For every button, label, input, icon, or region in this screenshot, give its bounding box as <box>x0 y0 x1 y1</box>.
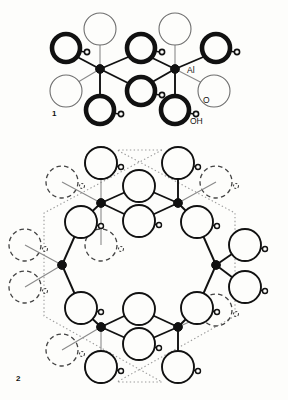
oxygen-circle <box>159 13 191 45</box>
hydroxyl-circle <box>127 34 155 62</box>
oxygen-circle <box>123 205 155 237</box>
hydrogen-circle <box>234 49 239 54</box>
hydroxyl-circle <box>86 96 114 124</box>
equivalent-hydrogen-circle <box>234 184 239 189</box>
oxygen-circle <box>85 351 117 383</box>
aluminium-node <box>174 199 183 208</box>
oxygen-circle <box>123 293 155 325</box>
outer-bond <box>25 265 62 287</box>
oxygen-circle <box>229 229 261 261</box>
hydrogen-circle <box>157 223 162 228</box>
hydrogen-circle <box>263 247 268 252</box>
equivalent-hydrogen-circle <box>43 289 48 294</box>
equivalent-hydrogen-circle <box>119 247 124 252</box>
hydrogen-circle <box>99 224 104 229</box>
aluminium-node <box>97 323 106 332</box>
oxygen-circle <box>181 292 213 324</box>
oxygen-circle <box>84 13 116 45</box>
hydrogen-circle <box>196 369 201 374</box>
aluminium-node <box>212 261 221 270</box>
hydrogen-circle <box>118 111 123 116</box>
hydrogen-circle <box>215 310 220 315</box>
aluminium-node <box>97 199 106 208</box>
outer-bond <box>178 182 216 203</box>
oxygen-circle <box>65 292 97 324</box>
figure-number-1: 1 <box>52 109 57 118</box>
hydroxyl-circle <box>161 96 189 124</box>
oxygen-circle <box>123 170 155 202</box>
hydrogen-circle <box>157 346 162 351</box>
hydrogen-circle <box>119 369 124 374</box>
equivalent-hydrogen-circle <box>234 312 239 317</box>
equivalent-hydrogen-circle <box>80 184 85 189</box>
outer-bond <box>62 327 101 350</box>
oxygen-circle <box>162 147 194 179</box>
hydroxyl-circle <box>202 34 230 62</box>
hydrogen-circle <box>84 49 89 54</box>
hydrogen-circle <box>119 165 124 170</box>
hydrogen-circle <box>99 310 104 315</box>
label-o: O <box>203 95 210 105</box>
hydrogen-circle <box>159 49 164 54</box>
hydroxyl-circle <box>127 77 155 105</box>
oxygen-circle <box>181 206 213 238</box>
equivalent-hydrogen-circle <box>43 247 48 252</box>
panel2-oxygen-circles <box>65 147 268 383</box>
aluminium-node <box>58 261 67 270</box>
oxygen-circle <box>65 206 97 238</box>
hydrogen-circle <box>263 289 268 294</box>
oxygen-circle <box>85 147 117 179</box>
oxygen-circle <box>229 271 261 303</box>
aluminium-node <box>96 65 105 74</box>
molecular-diagram-svg: Al O OH 1 2 <box>0 0 288 400</box>
hydrogen-circle <box>159 92 164 97</box>
figure-canvas: Al O OH 1 2 <box>0 0 288 400</box>
aluminium-node <box>171 65 180 74</box>
hydrogen-circle <box>196 165 201 170</box>
equivalent-hydrogen-circle <box>80 352 85 357</box>
oxygen-circle <box>50 75 82 107</box>
oxygen-circle <box>162 351 194 383</box>
figure-number-2: 2 <box>16 374 21 383</box>
oxygen-circle <box>123 328 155 360</box>
aluminium-node <box>174 323 183 332</box>
label-oh: OH <box>190 116 203 126</box>
hydroxyl-circle <box>52 34 80 62</box>
hydrogen-circle <box>215 224 220 229</box>
label-al: Al <box>187 65 195 75</box>
